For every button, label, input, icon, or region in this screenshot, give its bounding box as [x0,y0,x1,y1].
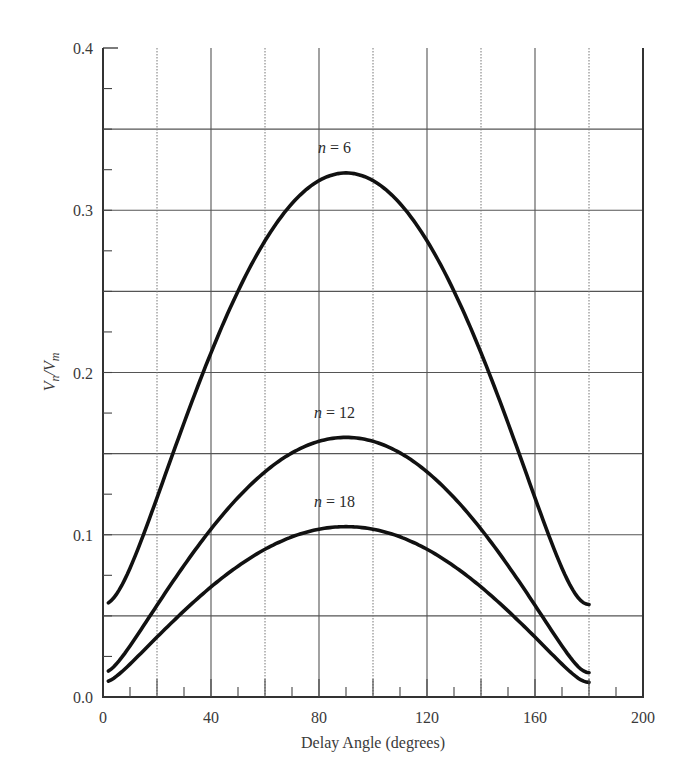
y-tick-label: 0.2 [73,365,93,382]
x-tick-label: 0 [99,709,107,726]
y-axis-title: Vn/Vm [41,352,62,391]
curve-n18 [108,527,589,683]
curve-labels: n = 6 n = 12 n = 18 [314,139,355,510]
y-tick-label: 0.0 [73,689,93,706]
x-tick-label: 120 [415,709,439,726]
svg-text:Vn/Vm: Vn/Vm [41,352,62,391]
curve-label-n6: n = 6 [318,139,351,156]
y-tick-label: 0.3 [73,202,93,219]
grid-lines [103,48,643,697]
x-tick-label: 40 [203,709,219,726]
x-tick-label: 80 [311,709,327,726]
curve-label-n18: n = 18 [314,493,355,510]
x-tick-label: 160 [523,709,547,726]
curve-label-n12: n = 12 [314,404,355,421]
y-tick-label: 0.4 [73,40,93,57]
x-axis-title: Delay Angle (degrees) [301,734,445,752]
x-tick-label: 200 [631,709,655,726]
curves [108,173,589,683]
tick-labels: 040801201602000.00.10.20.30.4 [73,40,655,726]
y-tick-label: 0.1 [73,527,93,544]
harmonic-voltage-chart: 040801201602000.00.10.20.30.4 Delay Angl… [0,0,690,780]
curve-n12 [108,437,589,672]
curve-n6 [108,173,589,605]
